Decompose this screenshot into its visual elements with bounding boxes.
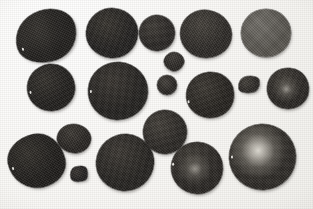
specimen-02-body xyxy=(84,5,141,60)
specimen-09-body xyxy=(157,75,177,95)
specimen-12 xyxy=(265,66,311,111)
specimen-07 xyxy=(24,61,78,114)
specimen-10 xyxy=(184,70,237,121)
specimen-10-body xyxy=(184,70,237,121)
specimen-03 xyxy=(138,14,176,52)
specimen-07-body xyxy=(24,61,78,114)
specimen-05 xyxy=(241,9,291,57)
specimen-03-body xyxy=(138,14,176,52)
specimen-photograph xyxy=(0,0,313,209)
specimen-04-body xyxy=(176,6,236,62)
specimen-19 xyxy=(227,122,297,191)
specimen-12-body xyxy=(265,66,311,111)
specimen-18-body xyxy=(170,141,225,196)
specimen-19-body xyxy=(227,122,297,191)
specimen-18 xyxy=(170,141,225,196)
specimen-05-body xyxy=(241,9,291,57)
specimen-09 xyxy=(157,75,177,95)
specimen-04 xyxy=(176,6,236,62)
specimen-02 xyxy=(84,5,141,60)
